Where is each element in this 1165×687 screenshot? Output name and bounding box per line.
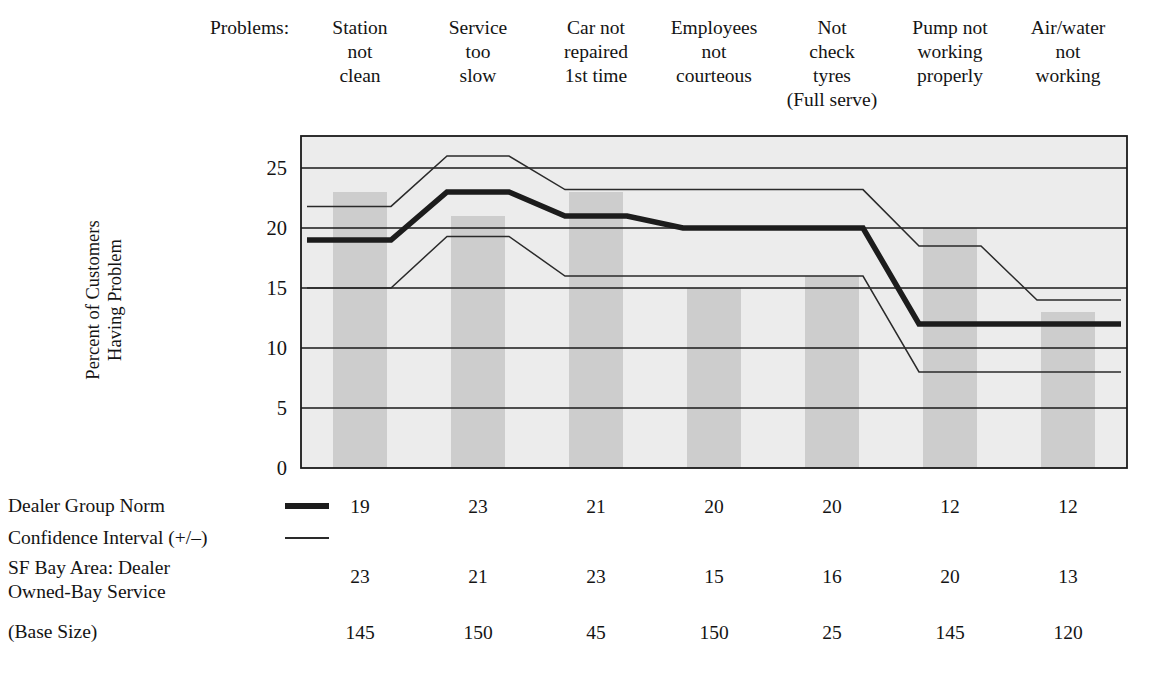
table-cell-r1-c7: 12 bbox=[1009, 496, 1127, 518]
column-header-line: properly bbox=[891, 64, 1009, 88]
table-cell-r3-c6: 20 bbox=[891, 566, 1009, 588]
plot-background bbox=[301, 136, 1127, 468]
plot-frame bbox=[301, 136, 1127, 468]
column-header-line: Air/water bbox=[1009, 16, 1127, 40]
table-row-label-4: (Base Size) bbox=[8, 620, 97, 644]
table-cell-r3-c1: 23 bbox=[301, 566, 419, 588]
column-header-line: not bbox=[301, 40, 419, 64]
column-header-line: not bbox=[655, 40, 773, 64]
column-header-line: slow bbox=[419, 64, 537, 88]
data-table: Dealer Group Norm19232120201212Confidenc… bbox=[0, 480, 1165, 687]
column-header-7: Air/waternotworking bbox=[1009, 16, 1127, 88]
column-header-3: Car notrepaired1st time bbox=[537, 16, 655, 88]
dealer-group-norm-line bbox=[307, 192, 1121, 324]
table-cell-r3-c3: 23 bbox=[537, 566, 655, 588]
table-row-label-line: (Base Size) bbox=[8, 620, 97, 644]
bar-2 bbox=[451, 216, 505, 468]
column-header-line: courteous bbox=[655, 64, 773, 88]
y-axis-title: Percent of CustomersHaving Problem bbox=[82, 150, 126, 450]
table-cell-r1-c4: 20 bbox=[655, 496, 773, 518]
column-header-line: Employees bbox=[655, 16, 773, 40]
y-tick-label-10: 10 bbox=[243, 338, 287, 358]
table-cell-r4-c4: 150 bbox=[655, 622, 773, 644]
column-header-line: tyres bbox=[773, 64, 891, 88]
y-tick-label-0: 0 bbox=[243, 458, 287, 478]
table-row-label-3: SF Bay Area: DealerOwned-Bay Service bbox=[8, 556, 170, 604]
table-row-label-2: Confidence Interval (+/–) bbox=[8, 526, 207, 550]
table-cell-r4-c3: 45 bbox=[537, 622, 655, 644]
table-cell-r4-c5: 25 bbox=[773, 622, 891, 644]
bar-3 bbox=[569, 192, 623, 468]
table-row-label-line: Dealer Group Norm bbox=[8, 494, 165, 518]
table-cell-r3-c7: 13 bbox=[1009, 566, 1127, 588]
column-headers: Problems: StationnotcleanServicetooslowC… bbox=[0, 0, 1165, 130]
bar-5 bbox=[805, 276, 859, 468]
column-header-line: repaired bbox=[537, 40, 655, 64]
table-cell-r3-c4: 15 bbox=[655, 566, 773, 588]
table-cell-r4-c2: 150 bbox=[419, 622, 537, 644]
table-cell-r3-c2: 21 bbox=[419, 566, 537, 588]
table-cell-r1-c1: 19 bbox=[301, 496, 419, 518]
column-header-1: Stationnotclean bbox=[301, 16, 419, 88]
y-tick-label-25: 25 bbox=[243, 158, 287, 178]
column-header-line: not bbox=[1009, 40, 1127, 64]
column-header-line: Car not bbox=[537, 16, 655, 40]
table-row-label-line: Confidence Interval (+/–) bbox=[8, 526, 207, 550]
confidence-interval-lower-line bbox=[307, 236, 1121, 372]
column-header-line: too bbox=[419, 40, 537, 64]
table-row-label-line: SF Bay Area: Dealer bbox=[8, 556, 170, 580]
table-cell-r4-c7: 120 bbox=[1009, 622, 1127, 644]
column-header-line: working bbox=[1009, 64, 1127, 88]
column-header-line: working bbox=[891, 40, 1009, 64]
column-header-line: Service bbox=[419, 16, 537, 40]
column-header-line: Not bbox=[773, 16, 891, 40]
table-cell-r1-c3: 21 bbox=[537, 496, 655, 518]
table-cell-r4-c6: 145 bbox=[891, 622, 1009, 644]
column-header-2: Servicetooslow bbox=[419, 16, 537, 88]
table-row-label-1: Dealer Group Norm bbox=[8, 494, 165, 518]
bar-6 bbox=[923, 228, 977, 468]
column-header-line: Station bbox=[301, 16, 419, 40]
legend-swatch-confidence-interval bbox=[285, 537, 329, 539]
table-row-label-line: Owned-Bay Service bbox=[8, 580, 170, 604]
table-cell-r1-c6: 12 bbox=[891, 496, 1009, 518]
column-header-line: check bbox=[773, 40, 891, 64]
column-header-5: Notchecktyres(Full serve) bbox=[773, 16, 891, 112]
confidence-interval-upper-line bbox=[307, 156, 1121, 300]
column-header-6: Pump notworkingproperly bbox=[891, 16, 1009, 88]
column-header-4: Employeesnotcourteous bbox=[655, 16, 773, 88]
table-cell-r1-c5: 20 bbox=[773, 496, 891, 518]
column-header-line: (Full serve) bbox=[773, 88, 891, 112]
bar-1 bbox=[333, 192, 387, 468]
column-header-line: 1st time bbox=[537, 64, 655, 88]
y-tick-label-20: 20 bbox=[243, 218, 287, 238]
y-axis-title-line: Having Problem bbox=[104, 150, 126, 450]
column-header-line: Pump not bbox=[891, 16, 1009, 40]
y-tick-label-15: 15 bbox=[243, 278, 287, 298]
table-cell-r1-c2: 23 bbox=[419, 496, 537, 518]
y-axis-title-line: Percent of Customers bbox=[82, 150, 104, 450]
table-cell-r4-c1: 145 bbox=[301, 622, 419, 644]
column-header-line: clean bbox=[301, 64, 419, 88]
y-tick-label-5: 5 bbox=[243, 398, 287, 418]
table-cell-r3-c5: 16 bbox=[773, 566, 891, 588]
bar-7 bbox=[1041, 312, 1095, 468]
bar-4 bbox=[687, 288, 741, 468]
